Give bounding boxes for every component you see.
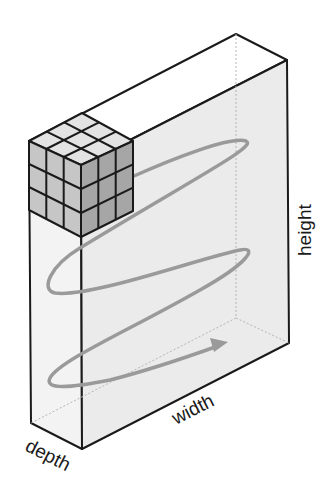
volume-diagram: height width depth — [0, 0, 332, 489]
kernel-cube — [29, 113, 133, 237]
height-label: height — [294, 204, 315, 256]
